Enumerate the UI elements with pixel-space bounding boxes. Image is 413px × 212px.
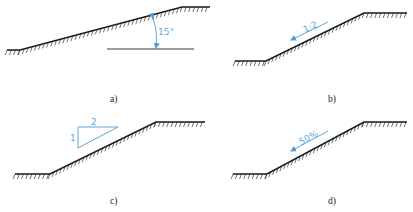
hatching (233, 13, 406, 66)
hatching (13, 122, 202, 179)
panel-d: 50% d) (231, 122, 407, 207)
slope-triangle-icon (78, 127, 118, 148)
caption-c: c) (110, 196, 117, 207)
ground-profile (233, 122, 407, 174)
panel-a: 15° a) (5, 7, 210, 105)
panel-b: 1:2 b) (233, 13, 407, 105)
caption-b: b) (328, 94, 336, 105)
angle-arc-icon (153, 18, 157, 48)
ground-profile (15, 122, 205, 174)
caption-a: a) (110, 94, 117, 105)
angle-label: 15° (158, 27, 174, 37)
ratio-label: 1:2 (302, 19, 319, 34)
caption-d: d) (328, 196, 336, 207)
panel-c: 2 1 c) (13, 117, 205, 207)
hatching (5, 7, 207, 55)
hatching (231, 122, 406, 179)
percentage-label: 50% (297, 129, 320, 147)
triangle-vertical-label: 1 (70, 133, 76, 143)
triangle-horizontal-label: 2 (91, 117, 97, 127)
slope-notation-figure: 15° a) 1:2 b) 2 1 c) 50% d) (0, 0, 413, 212)
